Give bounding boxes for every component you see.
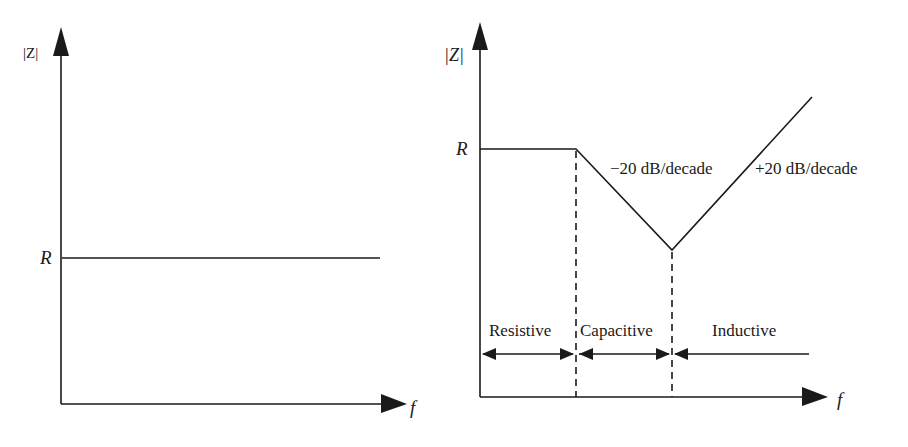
resistive-left-arrow-icon <box>482 348 496 360</box>
right-y-axis-label: |Z| <box>444 46 464 64</box>
left-y-axis-arrow-icon <box>53 27 69 56</box>
slope-down-label: −20 dB/decade <box>610 160 713 177</box>
capacitive-left-arrow-icon <box>579 348 593 360</box>
inductive-left-arrow-icon <box>674 348 688 360</box>
region-label-resistive: Resistive <box>489 322 551 339</box>
left-x-axis-arrow-icon <box>381 394 407 413</box>
region-label-inductive: Inductive <box>712 322 776 339</box>
right-x-axis-label: f <box>837 390 842 409</box>
right-level-label: R <box>456 139 468 158</box>
slope-up-label: +20 dB/decade <box>755 160 858 177</box>
right-panel <box>472 22 828 406</box>
capacitive-right-arrow-icon <box>656 348 670 360</box>
left-x-axis-label: f <box>410 398 415 417</box>
right-x-axis-arrow-icon <box>802 387 828 406</box>
region-label-capacitive: Capacitive <box>580 322 653 339</box>
left-y-axis-label: |Z| <box>23 46 38 61</box>
right-y-axis-arrow-icon <box>472 22 488 50</box>
left-panel <box>53 27 407 413</box>
figure-canvas <box>0 0 908 447</box>
resistive-right-arrow-icon <box>560 348 574 360</box>
left-level-label: R <box>40 248 52 267</box>
